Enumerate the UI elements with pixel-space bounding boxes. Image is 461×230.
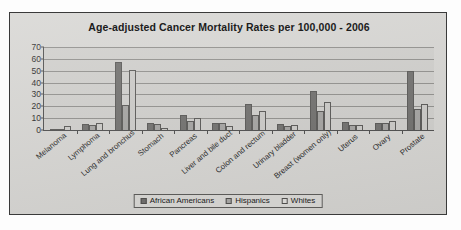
bar (252, 115, 259, 130)
x-axis-label-slot: Lung and bronchus (108, 133, 141, 195)
bar (154, 124, 161, 130)
x-axis-label: Uterus (337, 133, 360, 154)
x-axis-label-slot: Ovary (369, 133, 402, 195)
bar (259, 111, 266, 130)
bar (310, 91, 317, 130)
bar (342, 122, 349, 130)
x-axis-label-slot: Prostate (401, 133, 434, 195)
bar (129, 70, 136, 130)
bar (187, 121, 194, 130)
x-axis-label: Stomach (137, 132, 166, 158)
bar (89, 125, 96, 130)
bar (96, 123, 103, 130)
bar (407, 71, 414, 130)
bar-group (77, 47, 110, 130)
x-axis-label: Pancreas (168, 132, 198, 159)
bar-group (272, 47, 305, 130)
bar (212, 123, 219, 130)
bar-groups (44, 47, 434, 130)
bar (356, 125, 363, 130)
y-axis-tick-label: 50 (32, 66, 41, 75)
legend-swatch (226, 198, 232, 204)
chart-page: Age-adjusted Cancer Mortality Rates per … (0, 0, 461, 230)
bar-group (44, 47, 77, 130)
legend-label: Hispanics (235, 197, 270, 205)
bar-group (239, 47, 272, 130)
bar (161, 128, 168, 130)
bar-group (174, 47, 207, 130)
y-axis-tick-label: 10 (32, 114, 41, 123)
bar-group (142, 47, 175, 130)
x-axis-label-slot: Melanoma (43, 133, 76, 195)
bar (324, 102, 331, 130)
chart-legend: African AmericansHispanicsWhites (134, 194, 323, 208)
y-axis-tick-label: 40 (32, 78, 41, 87)
bar (50, 129, 57, 130)
y-axis-tick-label: 30 (32, 90, 41, 99)
x-axis-label-slot: Stomach (141, 133, 174, 195)
x-axis-label: Ovary (371, 133, 392, 152)
bar-group (337, 47, 370, 130)
legend-swatch (282, 198, 288, 204)
chart-title: Age-adjusted Cancer Mortality Rates per … (10, 21, 448, 33)
y-axis-tick-label: 60 (32, 55, 41, 64)
bar (82, 124, 89, 130)
bar (180, 115, 187, 130)
legend-label: Whites (291, 197, 315, 205)
bar-group (109, 47, 142, 130)
bar (317, 111, 324, 130)
bar (245, 104, 252, 130)
y-axis-tick-label: 20 (32, 102, 41, 111)
x-axis-labels: MelanomaLymphomaLung and bronchusStomach… (43, 133, 434, 195)
legend-item: African Americans (141, 197, 214, 205)
bar-group (369, 47, 402, 130)
bar (277, 124, 284, 130)
bar-group (207, 47, 240, 130)
bar (147, 123, 154, 130)
chart-frame: Age-adjusted Cancer Mortality Rates per … (9, 12, 447, 215)
bar (64, 126, 71, 130)
bar (375, 123, 382, 130)
bar (194, 118, 201, 130)
bar (382, 123, 389, 130)
bar (219, 123, 226, 130)
y-axis-tick-label: 70 (32, 43, 41, 52)
bar (57, 129, 64, 130)
legend-item: Whites (282, 197, 315, 205)
x-axis-label-slot: Uterus (336, 133, 369, 195)
legend-swatch (141, 198, 147, 204)
bar-group (304, 47, 337, 130)
bar (349, 125, 356, 130)
x-axis-label-slot: Breast (women only) (304, 133, 337, 195)
bar (389, 121, 396, 130)
bar (115, 62, 122, 130)
x-axis-label: Prostate (399, 132, 426, 157)
bar (421, 104, 428, 130)
legend-label: African Americans (150, 197, 214, 205)
x-axis-label: Melanoma (35, 132, 68, 161)
bar (122, 105, 129, 130)
legend-item: Hispanics (226, 197, 270, 205)
plot-wrapper: 010203040506070 (43, 47, 434, 131)
plot-area: 010203040506070 (43, 47, 434, 131)
bar-group (402, 47, 435, 130)
bar (414, 109, 421, 130)
